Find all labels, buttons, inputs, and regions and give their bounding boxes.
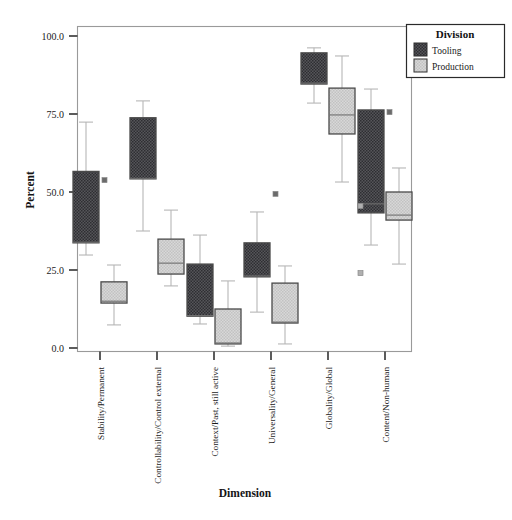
box-iqr[interactable]	[358, 110, 384, 213]
box-iqr[interactable]	[329, 88, 355, 134]
box-iqr[interactable]	[158, 239, 184, 274]
box-iqr[interactable]	[101, 282, 127, 303]
legend-swatch-production[interactable]	[414, 59, 427, 72]
legend: Division Tooling Production	[407, 25, 505, 78]
x-category-label: Content/Non-human	[381, 367, 391, 443]
box-iqr[interactable]	[73, 171, 99, 242]
outlier-marker[interactable]	[358, 204, 363, 209]
legend-title: Division	[436, 28, 475, 40]
outlier-marker[interactable]	[102, 178, 107, 183]
box-iqr[interactable]	[386, 192, 412, 220]
box-iqr[interactable]	[130, 118, 156, 179]
x-category-label: Universality/General	[267, 367, 277, 444]
y-tick-label: 75.0	[47, 109, 65, 120]
y-tick-label: 100.0	[42, 31, 65, 42]
x-category-label: Context/Past, still active	[210, 367, 220, 457]
y-axis-title: Percent	[24, 171, 36, 209]
y-tick-label: 25.0	[47, 265, 65, 276]
box-iqr[interactable]	[301, 53, 327, 84]
legend-swatch-tooling[interactable]	[414, 43, 427, 56]
box-iqr[interactable]	[215, 309, 241, 344]
box-iqr[interactable]	[187, 264, 213, 316]
outlier-marker[interactable]	[387, 110, 392, 115]
x-category-label: Globality/Global	[324, 367, 334, 430]
x-category-label: Controllability/Control external	[153, 367, 163, 484]
x-axis-title: Dimension	[219, 487, 272, 499]
y-tick-label: 0.0	[52, 343, 65, 354]
legend-label-production: Production	[432, 62, 474, 72]
boxplot-chart: Percent Dimension 0.025.050.075.0100.0 S…	[0, 0, 512, 520]
box-iqr[interactable]	[244, 243, 270, 277]
y-tick-label: 50.0	[47, 187, 65, 198]
outlier-marker[interactable]	[273, 191, 278, 196]
outlier-marker[interactable]	[358, 271, 363, 276]
legend-label-tooling: Tooling	[432, 46, 462, 56]
box-iqr[interactable]	[272, 283, 298, 323]
x-category-label: Stability/Permanent	[96, 367, 106, 440]
chart-canvas: Percent Dimension 0.025.050.075.0100.0 S…	[0, 0, 512, 520]
